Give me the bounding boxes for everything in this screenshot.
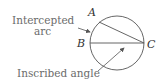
point-c-label: C: [147, 38, 156, 51]
intercepted-label-line2: arc: [34, 25, 51, 37]
point-b-label: B: [76, 37, 85, 50]
inscribed-angle-label: Inscribed angle: [17, 67, 100, 79]
intercepted-arc-arrow: [78, 28, 90, 32]
inscribed-angle-arrow: [98, 48, 124, 71]
point-a-label: A: [87, 6, 96, 19]
inscribed-angle-diagram: Intercepted arc Inscribed angle A B C: [0, 0, 163, 84]
